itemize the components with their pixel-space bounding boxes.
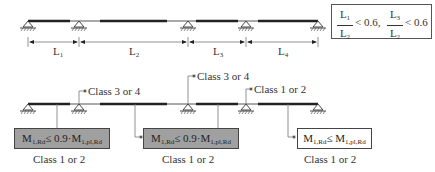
support-icon [310,21,326,31]
span-class-label-3: Class 1 or 2 [304,154,356,165]
support-icon [20,104,36,114]
span-moment-box-3: M1,Rd≤ M1,pl,Rd [297,128,372,149]
span-label-l4: L4 [278,46,288,59]
span-moment-box-2: M1,Rd≤ 0.9·M1,pl,Rd [143,128,239,149]
fraction-l1-over-l2: L1 L2 [337,8,353,43]
span-label-l1: L1 [53,46,63,59]
top-supports [20,21,326,31]
comparison-2: < 0.6 [405,16,428,28]
span-class-label-2: Class 1 or 2 [162,154,214,165]
support-icon [20,21,36,31]
support-icon [71,21,87,31]
span-label-l3: L3 [213,46,223,59]
dimension-lines [28,37,318,47]
support-icon [238,21,254,31]
bottom-supports [20,104,326,114]
support-icon [71,104,87,114]
comparison-1: < 0.6, [355,16,380,28]
support-class-label-3: Class 1 or 2 [254,84,306,95]
span-moment-box-1: M1,Rd≤ 0.9·M1,pl,Rd [14,128,110,149]
span-label-l2: L2 [129,46,139,59]
fraction-l3-over-l2: L3 L2 [387,8,403,43]
support-icon [310,104,326,114]
span-ratio-condition-box: L1 L2 < 0.6, L3 L2 < 0.6 [331,4,432,39]
support-icon [180,21,196,31]
support-class-label-2: Class 3 or 4 [197,71,249,82]
support-class-label-1: Class 3 or 4 [88,86,140,97]
support-icon [238,104,254,114]
support-icon [180,104,196,114]
span-class-label-1: Class 1 or 2 [33,154,85,165]
